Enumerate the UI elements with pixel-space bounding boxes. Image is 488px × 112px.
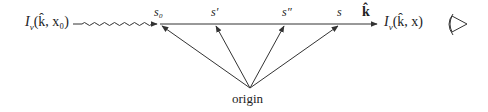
vector-origin-to-s-double-prime	[250, 26, 284, 88]
observed-intensity-label: Iν(k̂, x)	[384, 14, 423, 32]
s-double-prime-text: s″	[282, 5, 292, 19]
s-text: s	[337, 5, 342, 19]
k-hat-text: k̂	[362, 4, 370, 19]
point-label-s: s	[337, 5, 342, 20]
s0-text: s₀	[154, 5, 163, 19]
source-intensity-label: Iν(k̂, x₀)	[25, 14, 69, 32]
source-args: (k̂, x₀)	[34, 14, 69, 29]
vector-origin-to-s0	[162, 26, 250, 88]
point-label-s-double-prime: s″	[282, 5, 292, 20]
s-prime-text: s′	[211, 5, 218, 19]
origin-text: origin	[232, 91, 263, 106]
origin-label: origin	[232, 91, 263, 107]
observed-args: (k̂, x)	[393, 14, 423, 29]
point-label-s-prime: s′	[211, 5, 218, 20]
vector-origin-to-s	[250, 26, 338, 88]
wavy-incoming-ray	[82, 23, 157, 26]
direction-k-hat-label: k̂	[362, 4, 370, 20]
eye-icon	[449, 14, 467, 35]
point-label-s0: s₀	[154, 5, 163, 20]
vector-origin-to-s-prime	[216, 26, 250, 88]
